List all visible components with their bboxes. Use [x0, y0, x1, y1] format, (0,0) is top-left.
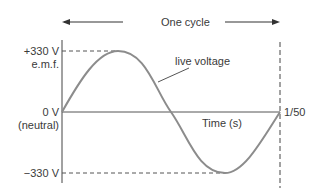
y-min-label: −330 V [0, 167, 59, 179]
y-zero-sub-label: (neutral) [0, 119, 59, 131]
cycle-label: One cycle [161, 16, 210, 28]
x-end-label: 1/50 [284, 106, 305, 118]
x-axis-label: Time (s) [202, 117, 242, 129]
diagram-graphics [0, 0, 316, 193]
y-max-sub-label: e.m.f. [0, 58, 59, 70]
curve-label-leader [158, 68, 189, 82]
curve-label: live voltage [175, 55, 230, 67]
y-zero-label: 0 V [0, 106, 59, 118]
y-max-label: +330 V [0, 45, 59, 57]
cycle-arrow-right [225, 19, 280, 25]
cycle-arrow-left [62, 19, 123, 25]
ac-voltage-diagram: One cycle live voltage +330 V e.m.f. 0 V… [0, 0, 316, 193]
